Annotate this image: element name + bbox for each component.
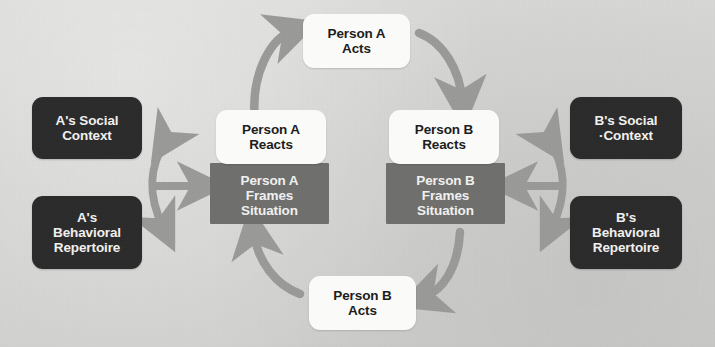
arrow-b-acts-to-a-frames: [254, 234, 300, 294]
node-b-social-context-label: B's Social ·Context: [595, 113, 658, 143]
node-person-a-acts[interactable]: Person A Acts: [303, 14, 410, 68]
node-person-b-acts-label: Person B Acts: [333, 288, 391, 318]
arrow-a-reacts-to-a-acts: [254, 31, 292, 122]
node-person-b-reacts-label: Person B Reacts: [415, 122, 473, 152]
node-person-a-reacts[interactable]: Person A Reacts: [216, 110, 326, 164]
node-person-a-frames-situation[interactable]: Person A Frames Situation: [210, 163, 329, 224]
node-person-b-reacts[interactable]: Person B Reacts: [389, 110, 499, 164]
node-b-behavioral-repertoire-label: B's Behavioral Repertoire: [592, 210, 660, 255]
node-b-social-context[interactable]: B's Social ·Context: [570, 97, 682, 159]
node-person-a-frames-situation-label: Person A Frames Situation: [241, 173, 299, 218]
node-person-a-reacts-label: Person A Reacts: [242, 122, 300, 152]
node-person-b-acts[interactable]: Person B Acts: [309, 276, 416, 330]
node-person-b-frames-situation-label: Person B Frames Situation: [416, 173, 474, 218]
node-person-b-frames-situation[interactable]: Person B Frames Situation: [386, 163, 505, 224]
node-a-social-context-label: A's Social Context: [56, 113, 119, 143]
node-b-behavioral-repertoire[interactable]: B's Behavioral Repertoire: [570, 196, 682, 269]
arrow-b-frames-to-b-acts: [424, 232, 460, 297]
node-a-behavioral-repertoire[interactable]: A's Behavioral Repertoire: [32, 196, 142, 269]
arrow-a-acts-to-b-reacts: [419, 33, 462, 100]
node-person-a-acts-label: Person A Acts: [328, 26, 386, 56]
node-a-social-context[interactable]: A's Social Context: [32, 97, 142, 159]
interaction-cycle-diagram: A's Social Context A's Behavioral Repert…: [0, 0, 715, 347]
node-a-behavioral-repertoire-label: A's Behavioral Repertoire: [53, 210, 121, 255]
